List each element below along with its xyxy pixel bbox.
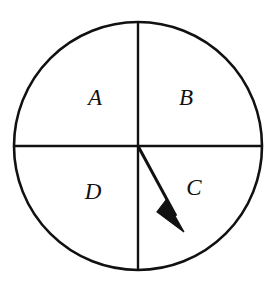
spinner-figure: A B D C: [0, 0, 279, 282]
sector-label-c: C: [186, 175, 202, 200]
sector-label-d: D: [84, 179, 102, 204]
spinner-wheel-svg: A B D C: [0, 0, 279, 282]
sector-label-a: A: [86, 85, 103, 110]
sector-label-b: B: [179, 85, 193, 110]
